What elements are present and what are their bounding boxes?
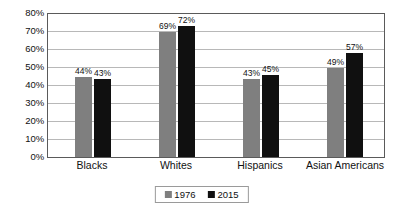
bar-value-label: 45% bbox=[262, 65, 279, 74]
legend: 1976 2015 bbox=[154, 186, 248, 203]
x-axis-labels: Blacks Whites Hispanics Asian Americans bbox=[47, 159, 385, 175]
y-tick-label: 10% bbox=[2, 134, 44, 144]
bar-group-asian-americans: 49% 57% bbox=[327, 14, 363, 157]
y-tick-label: 40% bbox=[2, 80, 44, 90]
y-axis: 80% 70% 60% 50% 40% 30% 20% 10% 0% bbox=[0, 0, 44, 170]
y-tick-label: 80% bbox=[2, 8, 44, 18]
bar-group-blacks: 44% 43% bbox=[75, 14, 111, 157]
bar-2015-asian-americans: 57% bbox=[346, 53, 363, 156]
bar-value-label: 43% bbox=[243, 69, 260, 78]
legend-item-2015: 2015 bbox=[208, 189, 239, 200]
plot-area: 44% 43% 69% 72% 43% 45% bbox=[47, 13, 385, 158]
y-tick-label: 0% bbox=[2, 152, 44, 162]
y-tick-label: 20% bbox=[2, 116, 44, 126]
bar-group-hispanics: 43% 45% bbox=[243, 14, 279, 157]
legend-swatch-2015 bbox=[208, 191, 215, 198]
legend-item-1976: 1976 bbox=[164, 189, 195, 200]
bar-value-label: 57% bbox=[346, 43, 363, 52]
bar-1976-blacks: 44% bbox=[75, 77, 92, 157]
legend-swatch-1976 bbox=[164, 191, 171, 198]
bar-1976-hispanics: 43% bbox=[243, 79, 260, 157]
bar-2015-hispanics: 45% bbox=[262, 75, 279, 157]
x-tick-label-blacks: Blacks bbox=[52, 159, 132, 172]
legend-label-1976: 1976 bbox=[174, 189, 195, 200]
bar-chart: 80% 70% 60% 50% 40% 30% 20% 10% 0% 44% 4… bbox=[0, 0, 403, 207]
bar-group-whites: 69% 72% bbox=[159, 14, 195, 157]
bar-value-label: 43% bbox=[94, 69, 111, 78]
x-tick-label-hispanics: Hispanics bbox=[220, 159, 300, 172]
bar-value-label: 69% bbox=[159, 22, 176, 31]
x-tick-label-asian-americans: Asian Americans bbox=[300, 159, 390, 172]
y-tick-label: 50% bbox=[2, 62, 44, 72]
y-tick-label: 60% bbox=[2, 44, 44, 54]
bar-value-label: 44% bbox=[75, 67, 92, 76]
bar-2015-whites: 72% bbox=[178, 26, 195, 156]
bar-1976-asian-americans: 49% bbox=[327, 68, 344, 157]
legend-label-2015: 2015 bbox=[218, 189, 239, 200]
bar-value-label: 49% bbox=[327, 58, 344, 67]
bars-layer: 44% 43% 69% 72% 43% 45% bbox=[48, 14, 384, 157]
bar-value-label: 72% bbox=[178, 16, 195, 25]
y-tick-label: 70% bbox=[2, 26, 44, 36]
bar-1976-whites: 69% bbox=[159, 32, 176, 157]
y-tick-label: 30% bbox=[2, 98, 44, 108]
bar-2015-blacks: 43% bbox=[94, 79, 111, 157]
x-tick-label-whites: Whites bbox=[136, 159, 216, 172]
